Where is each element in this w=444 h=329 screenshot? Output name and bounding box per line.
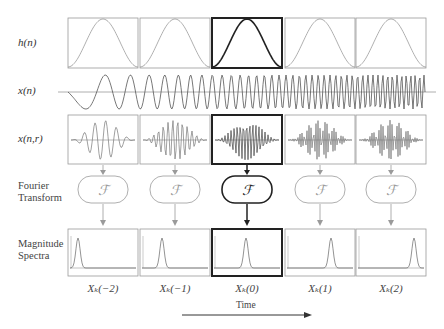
arrow-head-icon xyxy=(244,170,250,175)
arrow-head-icon xyxy=(317,170,323,175)
spectrum-box xyxy=(285,229,355,276)
spectrum-box xyxy=(140,229,210,276)
arrow-head-icon xyxy=(100,220,106,226)
spectrum-caption: Xₖ(−2) xyxy=(68,282,138,295)
spectrum-box xyxy=(212,229,282,276)
window-box xyxy=(68,18,138,68)
window-box xyxy=(212,18,282,68)
spectrum-box xyxy=(356,229,426,276)
arrow-head-icon xyxy=(317,220,323,226)
window-box xyxy=(140,18,210,68)
spectrum-caption: Xₖ(1) xyxy=(285,282,355,295)
arrow-head-icon xyxy=(172,220,178,226)
time-label: Time xyxy=(236,300,256,310)
arrow-head-icon xyxy=(100,170,106,175)
stft-diagram: ℱℱℱℱℱ xyxy=(0,0,444,329)
window-box xyxy=(356,18,426,68)
spectrum-caption: Xₖ(2) xyxy=(356,282,426,295)
arrow-head-icon xyxy=(388,220,394,226)
window-box xyxy=(285,18,355,68)
arrow-head-icon xyxy=(172,170,178,175)
spectrum-box xyxy=(68,229,138,276)
spectrum-caption: Xₖ(−1) xyxy=(140,282,210,295)
time-arrow-icon xyxy=(304,312,312,318)
arrow-head-icon xyxy=(388,170,394,175)
arrow-head-icon xyxy=(244,220,250,226)
spectrum-caption: Xₖ(0) xyxy=(212,282,282,295)
